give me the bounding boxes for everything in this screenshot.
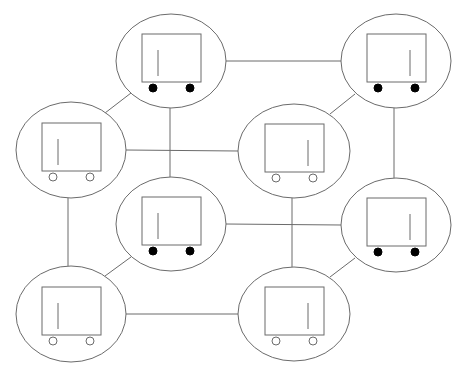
filled-wheel-icon <box>149 247 157 255</box>
node-b <box>341 14 451 108</box>
hollow-wheel-icon <box>49 173 57 181</box>
node-g <box>16 266 126 362</box>
edge-a-c <box>105 93 131 113</box>
cart-body <box>265 124 324 172</box>
cart-body <box>142 197 201 245</box>
node-h <box>238 267 350 361</box>
node-d <box>238 104 350 198</box>
cart-body <box>367 34 426 82</box>
edge-c-d <box>126 150 238 151</box>
hollow-wheel-icon <box>49 337 57 345</box>
diagram-svg <box>0 0 466 374</box>
node-e <box>116 177 226 271</box>
nodes-layer <box>16 14 451 362</box>
filled-wheel-icon <box>374 84 382 92</box>
node-f <box>341 178 451 272</box>
edge-e-f <box>226 224 341 225</box>
edge-b-d <box>330 94 355 114</box>
filled-wheel-icon <box>411 84 419 92</box>
filled-wheel-icon <box>149 84 157 92</box>
hollow-wheel-icon <box>272 337 280 345</box>
network-diagram <box>0 0 466 374</box>
filled-wheel-icon <box>411 248 419 256</box>
hollow-wheel-icon <box>86 173 94 181</box>
hollow-wheel-icon <box>86 337 94 345</box>
edge-f-h <box>330 258 355 277</box>
cart-body <box>42 287 101 335</box>
edge-e-g <box>105 257 131 276</box>
cart-body <box>367 198 426 246</box>
filled-wheel-icon <box>186 247 194 255</box>
node-a <box>116 14 226 108</box>
node-c <box>16 102 126 198</box>
hollow-wheel-icon <box>309 174 317 182</box>
filled-wheel-icon <box>186 84 194 92</box>
hollow-wheel-icon <box>309 337 317 345</box>
filled-wheel-icon <box>374 248 382 256</box>
cart-body <box>42 123 101 171</box>
cart-body <box>142 34 201 82</box>
cart-body <box>265 287 324 335</box>
hollow-wheel-icon <box>272 174 280 182</box>
edges-layer <box>68 61 394 314</box>
